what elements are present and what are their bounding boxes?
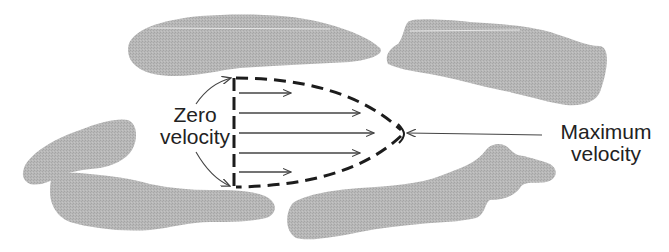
top-left-grain <box>128 14 381 76</box>
bottom-left-grain <box>50 173 275 231</box>
maximum-velocity-leader <box>407 133 542 135</box>
maximum-velocity-label-line2: velocity <box>547 143 665 165</box>
maximum-velocity-label: Maximum velocity <box>547 121 665 165</box>
zero-velocity-leader-top <box>196 78 231 104</box>
particles <box>23 14 607 239</box>
zero-velocity-label-line2: velocity <box>150 126 240 148</box>
bottom-right-grain <box>287 144 556 239</box>
diagram-canvas: Zero velocity Maximum velocity <box>0 0 669 252</box>
zero-velocity-label-line1: Zero <box>150 104 240 126</box>
zero-velocity-leader-bottom <box>196 152 230 186</box>
top-right-grain <box>387 19 607 105</box>
zero-velocity-label: Zero velocity <box>150 104 240 148</box>
maximum-velocity-label-line1: Maximum <box>547 121 665 143</box>
velocity-arrows <box>239 93 374 172</box>
